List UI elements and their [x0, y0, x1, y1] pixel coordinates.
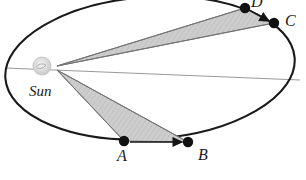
radius-sun-to-d	[57, 8, 245, 66]
radius-sun-to-c	[57, 23, 274, 66]
orbit-point-c	[269, 18, 279, 28]
swept-area-c-to-d	[57, 8, 274, 66]
sun-label: Sun	[29, 84, 52, 99]
point-d-label: D	[251, 0, 263, 10]
point-b-label: B	[198, 147, 208, 163]
point-a-label: A	[117, 148, 127, 164]
orbit-point-a	[119, 136, 129, 146]
orbital-diagram-figure: Sun A B C D	[0, 0, 306, 180]
sun-glyph-icon	[33, 57, 51, 75]
orbit-point-b	[183, 137, 193, 147]
orbit-point-d	[240, 3, 250, 13]
point-c-label: C	[285, 13, 296, 29]
